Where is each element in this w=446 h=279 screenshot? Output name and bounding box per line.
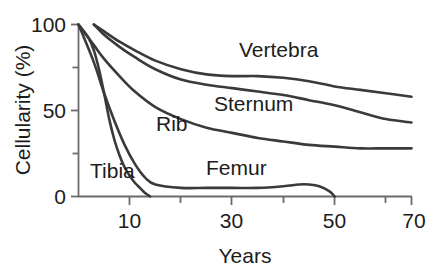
- chart-svg: 100 50 0 10 30 50 70 Years Cellularity (…: [0, 0, 446, 279]
- cellularity-vs-age-chart: 100 50 0 10 30 50 70 Years Cellularity (…: [0, 0, 446, 279]
- series-label-femur: Femur: [206, 156, 267, 179]
- series-label-vertebra: Vertebra: [239, 38, 319, 61]
- x-axis-ticks: [130, 197, 412, 206]
- series-label-sternum: Sternum: [214, 92, 293, 115]
- y-axis-title: Cellularity (%): [11, 45, 34, 176]
- series-label-tibia: Tibia: [90, 159, 135, 182]
- x-tick-label-50: 50: [323, 209, 346, 232]
- x-axis-title: Years: [219, 244, 272, 267]
- y-tick-label-100: 100: [31, 13, 66, 36]
- x-tick-label-10: 10: [118, 209, 141, 232]
- y-axis-ticks: [71, 25, 79, 197]
- x-tick-label-70: 70: [402, 209, 425, 232]
- y-tick-label-50: 50: [43, 99, 66, 122]
- x-tick-label-30: 30: [220, 209, 243, 232]
- series-label-rib: Rib: [156, 112, 188, 135]
- y-tick-label-0: 0: [54, 185, 66, 208]
